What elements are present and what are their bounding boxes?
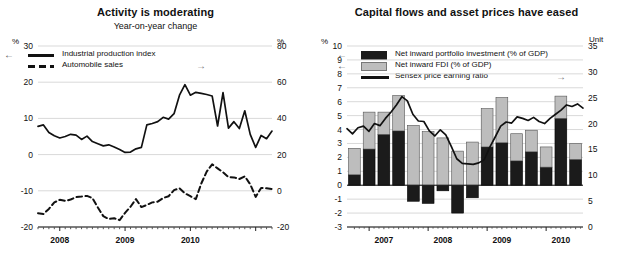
bar-fdi-2006Q4 (348, 148, 360, 174)
bar-fdi-2009Q2 (496, 98, 508, 143)
bar-portfolio-2007Q3 (393, 131, 405, 185)
bar-portfolio-2008Q2 (437, 185, 449, 191)
bar-portfolio-2007Q2 (378, 134, 390, 185)
bar-fdi-2008Q1 (422, 132, 434, 186)
plot-area-right (311, 0, 622, 256)
bar-fdi-2009Q4 (525, 130, 537, 152)
bar-portfolio-2008Q3 (452, 185, 464, 213)
bar-portfolio-2007Q1 (363, 149, 375, 185)
bar-fdi-2008Q3 (452, 151, 464, 185)
bar-fdi-2010Q1 (540, 147, 552, 167)
bar-fdi-2009Q3 (511, 134, 523, 161)
bar-portfolio-2009Q2 (496, 143, 508, 185)
bar-portfolio-2010Q1 (540, 167, 552, 185)
bar-fdi-2010Q3 (570, 143, 582, 159)
bar-portfolio-2008Q1 (422, 185, 434, 203)
bar-portfolio-2007Q4 (407, 185, 419, 201)
bar-portfolio-2009Q3 (511, 161, 523, 185)
bar-fdi-2009Q1 (481, 109, 493, 147)
bar-fdi-2007Q4 (407, 125, 419, 185)
bar-portfolio-2009Q4 (525, 152, 537, 185)
bar-portfolio-2010Q2 (555, 118, 567, 185)
bar-portfolio-2008Q4 (466, 185, 478, 198)
bar-fdi-2008Q2 (437, 138, 449, 185)
figure-container: Activity is moderating Year-on-year chan… (0, 0, 622, 256)
bar-portfolio-2010Q3 (570, 159, 582, 185)
panel-capital-flows: Capital flows and asset prices have ease… (311, 0, 622, 256)
plot-area-left (0, 0, 311, 256)
bar-portfolio-2006Q4 (348, 175, 360, 185)
panel-activity: Activity is moderating Year-on-year chan… (0, 0, 311, 256)
